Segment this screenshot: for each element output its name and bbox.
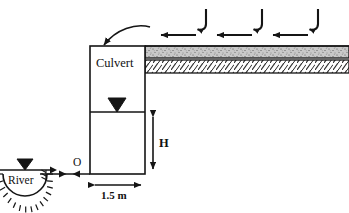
river-water-table-icon (17, 159, 33, 170)
seepage-arrowhead-left (73, 170, 81, 177)
figure-canvas: Culvert River O H 1.5 m (0, 0, 349, 213)
origin-point-label: O (73, 157, 81, 169)
embankment-soil-layers (145, 46, 349, 73)
soil-layer-lower-hatch (145, 60, 349, 73)
engineering-diagram (0, 0, 349, 213)
load-arrow-icon-1 (198, 9, 207, 30)
load-arrow-icon-3 (310, 9, 319, 30)
river-label: River (8, 175, 34, 187)
height-dimension-label: H (159, 137, 169, 150)
load-arrows-group (198, 9, 319, 30)
culvert-leader-arrow (104, 26, 150, 45)
width-dimension-label: 1.5 m (101, 190, 127, 201)
soil-layer-upper-stipple (145, 46, 349, 58)
seepage-arrowhead-right (59, 170, 67, 177)
load-arrow-icon-2 (254, 9, 263, 30)
river-surface-arrowhead (50, 167, 57, 174)
culvert-label: Culvert (96, 57, 134, 70)
